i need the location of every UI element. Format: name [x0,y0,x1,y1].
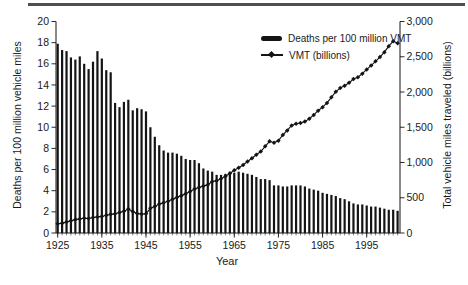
diamond-marker-icon [126,207,130,212]
diamond-marker-icon [69,219,74,224]
x-tick-label: 1995 [355,239,379,251]
diamond-marker-icon [117,210,122,215]
left-tick-label: 10 [37,121,49,133]
diamond-marker-icon [157,202,162,207]
diamond-marker-icon [108,212,113,217]
chart-area: 1925193519451955196519751985199502468101… [0,0,468,285]
diamond-marker-icon [91,215,96,220]
left-axis-ticks: 02468101214161820 [37,15,56,239]
diamond-marker-icon [86,216,91,221]
diamond-marker-icon [268,51,275,58]
x-tick-label: 1945 [134,239,158,251]
diamond-marker-icon [139,212,144,217]
right-tick-label: 500 [407,191,425,203]
x-tick-label: 1985 [311,239,335,251]
right-tick-label: 2,000 [407,86,433,98]
legend-item-vmt: VMT (billions) [261,47,411,63]
right-tick-label: 3,000 [407,15,433,27]
diamond-marker-icon [298,121,303,126]
legend-item-deaths: Deaths per 100 million VMT [261,30,411,46]
legend-label-deaths: Deaths per 100 million VMT [288,33,411,44]
diamond-marker-icon [170,197,175,202]
x-tick-label: 1955 [178,239,202,251]
right-axis-title: Total vehicle miles traveled (billions) [441,0,453,250]
x-tick-label: 1975 [267,239,291,251]
bar-series-swatch-icon [261,36,282,41]
diamond-marker-icon [60,221,65,226]
left-tick-label: 20 [37,15,49,27]
x-tick-label: 1925 [46,239,70,251]
x-axis-title: Year [147,255,307,267]
left-tick-label: 8 [43,142,49,154]
legend-label-vmt: VMT (billions) [289,50,350,61]
x-axis-ticks: 19251935194519551965197519851995 [46,233,379,251]
x-tick-label: 1935 [90,239,114,251]
bar-series-deaths [57,44,399,233]
diamond-marker-icon [192,187,197,192]
left-tick-label: 14 [37,79,49,91]
diamond-marker-icon [214,179,219,184]
diamond-marker-icon [135,211,140,216]
diamond-marker-icon [100,214,105,219]
left-tick-label: 6 [43,163,49,175]
left-axis-title: Deaths per 100 million vehicle miles [11,0,23,250]
left-tick-label: 2 [43,205,49,217]
diamond-marker-icon [183,192,188,197]
diamond-marker-icon [219,176,224,181]
document-page: 1925193519451955196519751985199502468101… [0,0,468,285]
diamond-marker-icon [95,215,100,220]
diamond-marker-icon [153,204,158,209]
left-tick-label: 12 [37,100,49,112]
left-tick-label: 4 [43,184,49,196]
diamond-marker-icon [179,193,184,198]
diamond-marker-icon [82,216,87,221]
right-tick-label: 1,500 [407,121,433,133]
diamond-marker-icon [166,199,171,204]
left-tick-label: 18 [37,36,49,48]
diamond-marker-icon [130,209,135,214]
left-tick-label: 16 [37,57,49,69]
diamond-marker-icon [122,209,127,214]
diamond-marker-icon [104,213,109,218]
diamond-marker-icon [161,200,166,205]
diamond-marker-icon [201,184,206,189]
line-series-swatch-icon [261,54,283,56]
diamond-marker-icon [188,189,193,194]
diamond-marker-icon [64,220,69,225]
x-tick-label: 1965 [223,239,247,251]
diamond-marker-icon [294,121,299,126]
right-tick-label: 1,000 [407,156,433,168]
diamond-marker-icon [113,212,118,217]
diamond-marker-icon [272,141,277,146]
diamond-marker-icon [175,195,180,200]
chart-legend: Deaths per 100 million VMT VMT (billions… [261,30,411,64]
diamond-marker-icon [197,185,202,190]
left-tick-label: 0 [43,227,49,239]
right-tick-label: 0 [407,227,413,239]
diamond-marker-icon [78,217,83,222]
diamond-marker-icon [73,217,78,222]
